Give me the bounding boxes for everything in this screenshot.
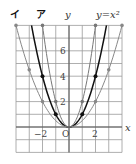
y-tick-4: 4 — [60, 72, 66, 82]
y-tick-2: 2 — [60, 97, 66, 107]
data-point — [94, 100, 98, 104]
data-point — [27, 68, 31, 72]
data-point — [94, 74, 98, 78]
data-point — [80, 100, 84, 104]
curve-label-a: ア — [36, 9, 46, 20]
data-point — [94, 24, 98, 28]
data-point — [41, 24, 45, 28]
data-point — [14, 24, 18, 28]
data-point — [41, 74, 45, 78]
data-point — [107, 68, 111, 72]
curve-label-i: イ — [10, 9, 20, 20]
parabola-chart: イ ア y y=x² x O −2 2 2 4 6 — [0, 0, 136, 164]
y-tick-6: 6 — [60, 46, 66, 56]
data-point — [41, 100, 45, 104]
x-tick-2: 2 — [92, 129, 98, 139]
x-axis-label: x — [125, 122, 131, 133]
data-point — [120, 24, 124, 28]
data-point — [54, 100, 58, 104]
data-point — [54, 112, 58, 116]
data-point — [80, 112, 84, 116]
y-axis-label: y — [64, 9, 71, 20]
x-tick-neg2: −2 — [34, 129, 47, 139]
origin-label: O — [62, 129, 69, 139]
curve-label-main: y=x² — [95, 9, 120, 20]
